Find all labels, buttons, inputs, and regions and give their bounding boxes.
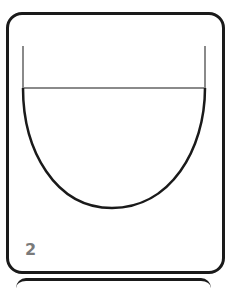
card-number: 2	[25, 240, 36, 259]
next-card-edge[interactable]	[16, 278, 211, 292]
bowl-curve	[23, 88, 205, 208]
